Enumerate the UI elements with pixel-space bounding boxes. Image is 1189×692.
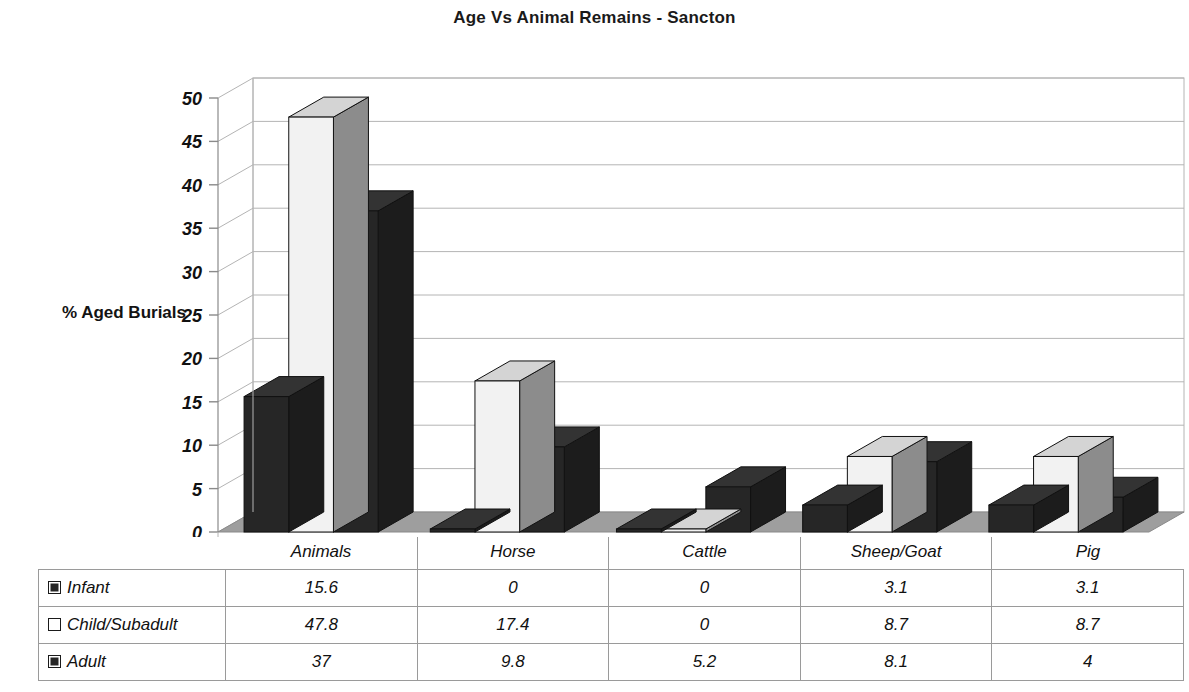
chart-container: Age Vs Animal Remains - Sancton % Aged B…	[0, 0, 1189, 692]
table-cell: 4	[992, 644, 1184, 681]
table-header-row: AnimalsHorseCattleSheep/GoatPig	[39, 537, 1184, 570]
column-header-pig: Pig	[992, 537, 1184, 570]
table-row: Child/Subadult47.817.408.78.7	[39, 607, 1184, 644]
table-cell: 3.1	[992, 570, 1184, 607]
table-cell: 3.1	[800, 570, 992, 607]
svg-text:15: 15	[182, 393, 203, 413]
bar-infant-animals	[244, 377, 324, 532]
legend-swatch-icon	[48, 618, 61, 631]
table-row: Infant15.6003.13.1	[39, 570, 1184, 607]
table-cell: 8.7	[992, 607, 1184, 644]
svg-text:35: 35	[182, 219, 203, 239]
table-cell: 0	[609, 607, 801, 644]
table-cell: 5.2	[609, 644, 801, 681]
column-header-cattle: Cattle	[609, 537, 801, 570]
table-cell: 47.8	[226, 607, 418, 644]
svg-text:45: 45	[181, 132, 203, 152]
table-cell: 0	[417, 570, 609, 607]
table-row: Adult379.85.28.14	[39, 644, 1184, 681]
table-cell: 17.4	[417, 607, 609, 644]
y-axis-tick-labels: 05101520253035404550	[181, 89, 203, 543]
table-cell: 15.6	[226, 570, 418, 607]
svg-text:30: 30	[182, 263, 202, 283]
svg-text:20: 20	[181, 349, 202, 369]
plot-area: 05101520253035404550	[0, 0, 1189, 560]
svg-text:50: 50	[182, 89, 202, 109]
column-header-sheep-goat: Sheep/Goat	[800, 537, 992, 570]
svg-text:10: 10	[182, 436, 202, 456]
table-cell: 8.1	[800, 644, 992, 681]
legend-swatch-icon	[48, 581, 61, 594]
data-table: AnimalsHorseCattleSheep/GoatPigInfant15.…	[38, 537, 1184, 681]
legend-label: Infant	[67, 578, 110, 597]
legend-item-adult: Adult	[39, 644, 226, 681]
legend-label: Child/Subadult	[67, 615, 178, 634]
table-cell: 37	[226, 644, 418, 681]
column-header-horse: Horse	[417, 537, 609, 570]
table-cell: 8.7	[800, 607, 992, 644]
legend-item-infant: Infant	[39, 570, 226, 607]
table-cell: 0	[609, 570, 801, 607]
svg-text:5: 5	[192, 480, 203, 500]
legend-item-child-subadult: Child/Subadult	[39, 607, 226, 644]
legend-label: Adult	[67, 652, 106, 671]
legend-swatch-icon	[48, 655, 61, 668]
svg-text:40: 40	[181, 176, 202, 196]
column-header-animals: Animals	[226, 537, 418, 570]
table-cell: 9.8	[417, 644, 609, 681]
svg-text:25: 25	[181, 306, 203, 326]
table-header-spacer	[39, 537, 226, 570]
bar-child-subadult-horse	[475, 361, 555, 532]
